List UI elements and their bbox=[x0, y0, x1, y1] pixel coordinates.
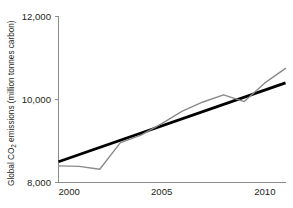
y-axis-title-suffix: emissions (million tonnes carbon) bbox=[6, 20, 16, 144]
chart-figure: Global CO2 emissions (million tonnes car… bbox=[0, 0, 293, 208]
y-axis-title: Global CO2 emissions (million tonnes car… bbox=[6, 20, 17, 186]
y-tick-label-10000: 10,000 bbox=[22, 94, 51, 105]
y-tick-label-8000: 8,000 bbox=[27, 177, 51, 188]
x-tick-label-2005: 2005 bbox=[151, 186, 172, 197]
y-axis-title-prefix: Global CO bbox=[6, 147, 16, 186]
x-tick-label-2010: 2010 bbox=[254, 186, 275, 197]
y-tick-label-12000: 12,000 bbox=[22, 11, 51, 22]
co2-emissions-line-chart: Global CO2 emissions (million tonnes car… bbox=[0, 0, 293, 208]
svg-text:Global CO2 emissions (million: Global CO2 emissions (million tonnes car… bbox=[6, 20, 17, 186]
x-tick-label-2000: 2000 bbox=[59, 186, 80, 197]
